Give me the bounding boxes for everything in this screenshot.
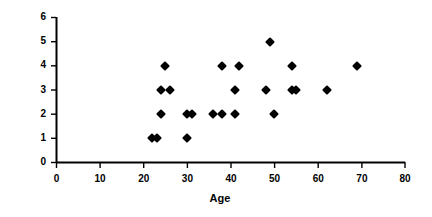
data-point [217,61,227,71]
x-tick-label: 50 [263,174,287,184]
x-tick-label: 70 [350,174,374,184]
data-point [165,85,175,95]
y-tick-label: 3 [30,85,46,95]
data-point [160,61,170,71]
data-point [152,133,162,143]
chart-axes [0,0,432,217]
x-tick-label: 0 [45,174,69,184]
x-tick-label: 30 [175,174,199,184]
y-axis-title: Family Size [18,0,40,40]
data-point [182,133,192,143]
data-point [287,61,297,71]
x-axis-title: Age [180,192,260,204]
x-tick-label: 40 [219,174,243,184]
y-tick-label: 1 [30,133,46,143]
data-point [265,37,275,47]
data-point [230,109,240,119]
data-point [261,85,271,95]
y-tick-label: 4 [30,60,46,70]
data-point [322,85,332,95]
y-tick-label: 2 [30,109,46,119]
x-tick-label: 80 [393,174,417,184]
data-point [217,109,227,119]
data-point [235,61,245,71]
scatter-chart: 6 5 4 3 2 1 0 0 10 20 30 40 50 60 70 80 … [0,0,432,217]
y-axis-title-wrap: Family Size [8,18,30,163]
x-axis-ticks [57,162,406,168]
data-point [230,85,240,95]
x-tick-label: 60 [306,174,330,184]
data-point [269,109,279,119]
y-tick-label: 0 [30,157,46,167]
data-point [156,109,166,119]
x-tick-label: 20 [132,174,156,184]
x-tick-label: 10 [88,174,112,184]
y-axis-ticks [51,18,56,163]
data-point [352,61,362,71]
